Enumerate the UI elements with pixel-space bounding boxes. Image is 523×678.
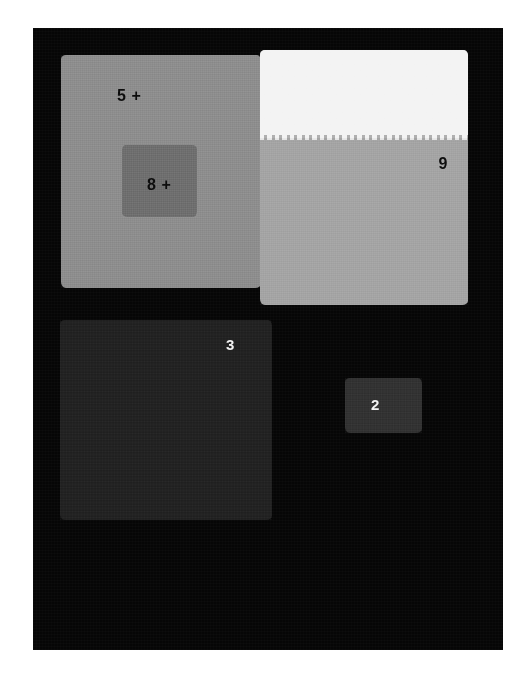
patch-label-2: 2: [371, 397, 380, 412]
gray-patch-3: 3: [60, 320, 272, 520]
figure-canvas: 5 + 8 + 9 3 2: [0, 0, 523, 678]
black-background-field: 5 + 8 + 9 3 2: [33, 28, 503, 650]
gray-patch-9: 9: [260, 50, 468, 305]
patch-9-white-region: [260, 50, 468, 138]
patch-label-9: 9: [438, 156, 448, 172]
gray-patch-8: 8 +: [122, 145, 197, 217]
patch-label-3: 3: [226, 337, 235, 352]
patch-label-5: 5 +: [117, 88, 142, 104]
gray-patch-5: 5 + 8 +: [61, 55, 261, 288]
patch-label-8: 8 +: [147, 177, 172, 193]
gray-patch-2: 2: [345, 378, 422, 433]
